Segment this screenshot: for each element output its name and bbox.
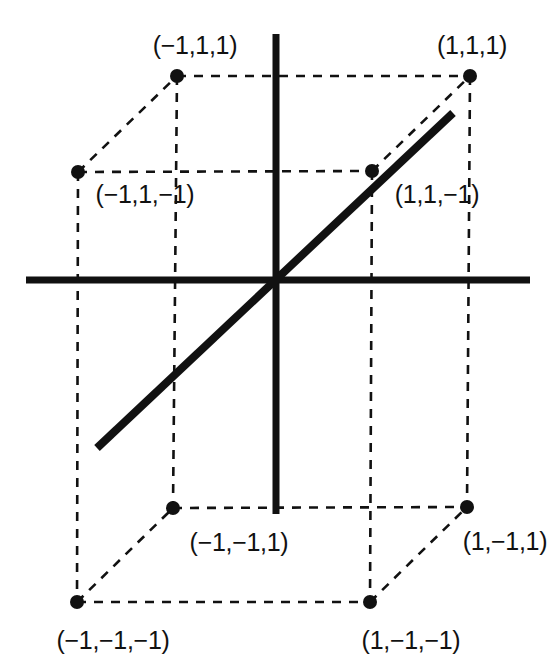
- edge-back-left: [77, 172, 78, 602]
- edge-depth-bottom-left: [77, 508, 173, 602]
- vertex-dot: [460, 500, 474, 514]
- vertex-label-v-m1-p1-p1: (−1,1,1): [153, 33, 237, 58]
- edge-back-right: [370, 171, 372, 602]
- vertex-label-v-p1-p1-m1: (1,1,−1): [395, 182, 479, 207]
- vertex-dot: [70, 595, 84, 609]
- cube-diagram-figure: (−1,1,1)(1,1,1)(−1,1,−1)(1,1,−1)(−1,−1,1…: [0, 0, 552, 671]
- vertex-dot: [363, 595, 377, 609]
- vertex-dot: [365, 164, 379, 178]
- edge-front-bottom: [173, 507, 467, 508]
- vertex-label-v-m1-m1-p1: (−1,−1,1): [190, 530, 289, 555]
- edge-front-right: [467, 76, 470, 507]
- vertex-dot: [463, 69, 477, 83]
- vertex-dot: [71, 165, 85, 179]
- vertex-label-v-m1-m1-m1: (−1,−1,−1): [56, 628, 169, 653]
- edge-depth-top-right: [372, 76, 470, 171]
- vertex-dot: [170, 69, 184, 83]
- edge-front-left: [173, 76, 177, 508]
- vertex-label-v-m1-p1-m1: (−1,1,−1): [96, 182, 195, 207]
- edge-back-top: [78, 171, 372, 172]
- cube-diagram-canvas: [0, 0, 552, 671]
- edge-depth-top-left: [78, 76, 177, 172]
- vertex-label-v-p1-p1-p1: (1,1,1): [437, 33, 507, 58]
- vertex-label-v-p1-m1-m1: (1,−1,−1): [362, 628, 461, 653]
- vertex-dot: [166, 501, 180, 515]
- edge-depth-bottom-right: [370, 507, 467, 602]
- vertex-label-v-p1-m1-p1: (1,−1,1): [463, 529, 547, 554]
